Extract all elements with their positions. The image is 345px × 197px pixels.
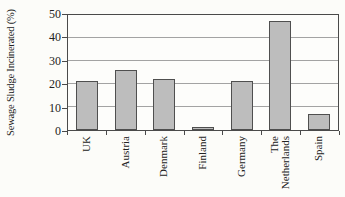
y-tick-label: 0 bbox=[33, 124, 61, 138]
x-category-label: Austria bbox=[109, 136, 143, 197]
x-tick-mark bbox=[261, 131, 262, 135]
x-category-label: Germany bbox=[225, 136, 259, 197]
y-tick-label: 30 bbox=[33, 54, 61, 68]
bar-slot bbox=[68, 15, 107, 130]
x-category-label: Finland bbox=[186, 136, 220, 197]
bar-slot bbox=[222, 15, 261, 130]
y-tick-mark bbox=[62, 108, 67, 109]
bar-austria bbox=[115, 70, 137, 130]
y-tick-label: 10 bbox=[33, 101, 61, 115]
bar-denmark bbox=[153, 79, 175, 130]
bar-spain bbox=[308, 114, 330, 130]
bar-slot bbox=[107, 15, 146, 130]
bar-slot bbox=[299, 15, 338, 130]
x-axis-labels: UKAustriaDenmarkFinlandGermanyThe Nether… bbox=[68, 134, 338, 197]
bar-slot bbox=[145, 15, 184, 130]
bar-the-netherlands bbox=[269, 21, 291, 130]
x-category-label: The Netherlands bbox=[263, 136, 297, 197]
bar-uk bbox=[76, 81, 98, 130]
y-tick-mark bbox=[62, 84, 67, 85]
x-category-label: Spain bbox=[302, 136, 336, 197]
bar-slot bbox=[261, 15, 300, 130]
x-category-label: Denmark bbox=[147, 136, 181, 197]
plot-area bbox=[67, 14, 339, 131]
x-tick-mark bbox=[222, 131, 223, 135]
bar-slot bbox=[184, 15, 223, 130]
y-tick-mark bbox=[62, 14, 67, 15]
x-tick-mark bbox=[106, 131, 107, 135]
y-tick-label: 40 bbox=[33, 30, 61, 44]
y-axis-title: Sewage Sludge Incinerated (%) bbox=[3, 3, 18, 143]
bar-finland bbox=[192, 127, 214, 130]
x-label-slot: UK bbox=[68, 134, 107, 197]
x-label-slot: Denmark bbox=[145, 134, 184, 197]
x-label-slot: Spain bbox=[299, 134, 338, 197]
x-label-slot: The Netherlands bbox=[261, 134, 300, 197]
x-category-label: UK bbox=[70, 136, 104, 197]
y-tick-label: 50 bbox=[33, 7, 61, 21]
bar-series bbox=[68, 15, 338, 130]
x-tick-mark bbox=[184, 131, 185, 135]
x-tick-mark bbox=[300, 131, 301, 135]
bar-chart-figure: Sewage Sludge Incinerated (%) UKAustriaD… bbox=[0, 0, 345, 197]
y-tick-label: 20 bbox=[33, 77, 61, 91]
x-tick-mark bbox=[145, 131, 146, 135]
y-tick-mark bbox=[62, 37, 67, 38]
x-tick-mark bbox=[339, 131, 340, 135]
x-label-slot: Finland bbox=[184, 134, 223, 197]
x-label-slot: Austria bbox=[107, 134, 146, 197]
x-label-slot: Germany bbox=[222, 134, 261, 197]
bar-germany bbox=[231, 81, 253, 130]
y-tick-mark bbox=[62, 61, 67, 62]
x-tick-mark bbox=[67, 131, 68, 135]
